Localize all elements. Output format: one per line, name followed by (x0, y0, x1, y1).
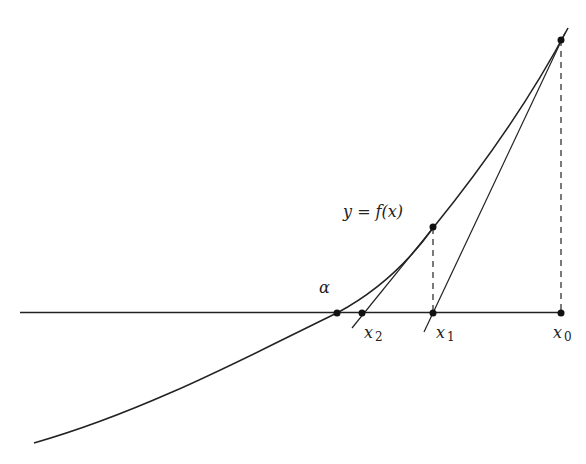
label-x0: x0 (553, 323, 572, 344)
newton-method-diagram: y = f(x) α x2 x1 x0 (0, 0, 586, 464)
label-alpha: α (319, 278, 330, 297)
label-x1: x1 (436, 323, 455, 344)
point-x0 (558, 310, 565, 317)
label-curve: y = f(x) (342, 202, 403, 221)
point-f-x1 (430, 224, 437, 231)
point-x1 (430, 310, 437, 317)
point-alpha (334, 310, 341, 317)
label-x2: x2 (364, 323, 383, 344)
tangent-line-x0 (424, 33, 565, 332)
curve-f (34, 28, 568, 443)
point-f-x0 (558, 37, 565, 44)
point-x2 (359, 310, 366, 317)
